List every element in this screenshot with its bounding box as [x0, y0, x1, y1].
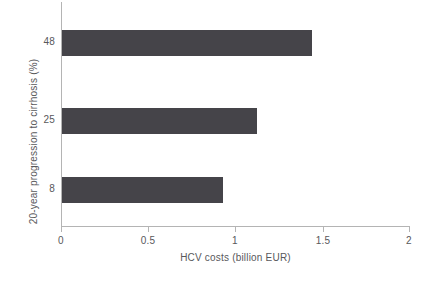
y-axis-tick-labels: 48 25 8 — [0, 0, 55, 283]
x-tick-1.5 — [323, 227, 324, 232]
bar-48 — [62, 30, 312, 56]
x-axis-title: HCV costs (billion EUR) — [61, 252, 410, 263]
x-tick-label-1.5: 1.5 — [316, 235, 331, 246]
y-tick-label-25: 25 — [43, 114, 55, 125]
x-tick-label-0.5: 0.5 — [141, 235, 156, 246]
x-tick-label-2: 2 — [406, 235, 412, 246]
x-tick-label-0: 0 — [58, 235, 64, 246]
x-tick-label-1: 1 — [232, 235, 238, 246]
x-tick-0 — [61, 227, 62, 232]
bar-25 — [62, 108, 257, 134]
x-tick-0.5 — [148, 227, 149, 232]
x-tick-1 — [235, 227, 236, 232]
x-tick-2 — [409, 227, 410, 232]
bar-chart-figure: 20-year progression to cirrhosis (%) 48 … — [0, 0, 437, 283]
y-tick-label-48: 48 — [43, 36, 55, 47]
plot-area: 0 0.5 1 1.5 2 — [61, 2, 410, 226]
y-tick-label-8: 8 — [49, 183, 55, 194]
bar-8 — [62, 177, 223, 203]
